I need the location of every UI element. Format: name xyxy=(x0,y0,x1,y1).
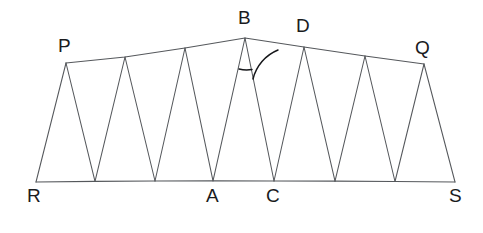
segment-a-b xyxy=(213,38,245,181)
vertex-label-q: Q xyxy=(415,38,430,57)
geometry-figure: P B D Q R A C S xyxy=(0,0,483,233)
vertex-label-p: P xyxy=(58,36,71,55)
segment-v7-q xyxy=(395,64,424,182)
vertex-label-d: D xyxy=(296,16,310,35)
segment-a3-a xyxy=(185,48,213,181)
geometry-svg xyxy=(0,0,483,233)
vertex-label-c: C xyxy=(266,186,280,205)
angle-arc-large-at-b xyxy=(253,50,278,79)
vertex-label-r: R xyxy=(27,186,41,205)
segment-d-v6 xyxy=(304,47,335,181)
segment-v2-a2 xyxy=(95,57,125,181)
vertex-label-s: S xyxy=(449,186,462,205)
segment-b-c xyxy=(245,38,274,181)
angle-arc-small-at-b xyxy=(239,69,252,70)
segment-c-d xyxy=(274,47,304,181)
segment-q-s xyxy=(424,64,455,182)
vertex-label-b: B xyxy=(238,8,251,27)
vertex-label-a: A xyxy=(206,186,219,205)
segment-a6-v7 xyxy=(365,56,395,182)
segment-a2-v3 xyxy=(125,57,155,181)
segment-v6-a6 xyxy=(335,56,365,181)
base-line-rs xyxy=(36,181,455,182)
segment-v3-a3 xyxy=(155,48,185,181)
segment-p-v2 xyxy=(66,63,95,181)
top-chain-pq xyxy=(66,38,424,64)
segment-r-p xyxy=(36,63,66,182)
